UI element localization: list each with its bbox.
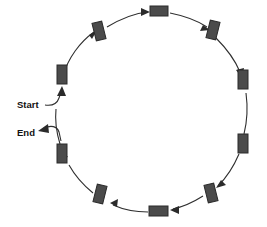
cycle-node-lower-right (238, 134, 248, 153)
cycle-arcs (56, 12, 247, 212)
end-annotation: End (17, 124, 61, 141)
cycle-node-left-lower (57, 144, 67, 163)
arrowhead-5 (216, 180, 226, 188)
arc-10 (56, 109, 60, 144)
cycle-node-top (150, 6, 168, 16)
end-arrowhead (38, 124, 49, 133)
cycle-node-bottom (149, 206, 168, 216)
arc-5 (244, 93, 247, 134)
cycle-node-bottom-left (93, 184, 107, 204)
cycle-node-upper-right (206, 20, 220, 40)
arc-1 (63, 32, 94, 76)
arc-8 (113, 205, 148, 212)
start-label: Start (17, 99, 39, 110)
cycle-diagram-canvas: Start End (0, 0, 267, 227)
arc-4 (216, 38, 240, 72)
end-label: End (17, 127, 35, 138)
cycle-node-bottom-right (204, 183, 218, 203)
arc-9 (69, 165, 93, 193)
cycle-node-top-left (92, 21, 106, 41)
arc-3 (170, 13, 207, 27)
start-annotation: Start (17, 86, 66, 110)
arrowhead-2 (141, 8, 150, 16)
cycle-node-right (238, 70, 248, 89)
arrowhead-6 (170, 206, 179, 214)
cycle-diagram: Start End (0, 0, 267, 227)
start-arrowhead (57, 86, 66, 96)
cycle-node-left-upper (57, 65, 67, 84)
